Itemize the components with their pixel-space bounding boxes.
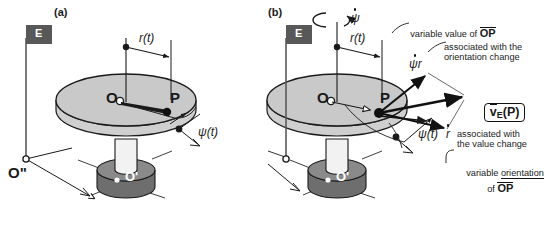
- panel-a-point-label: P: [170, 90, 180, 107]
- panel-a-ground-origin-node: [23, 156, 29, 162]
- panel-a-origin-label: O: [106, 90, 118, 107]
- panel-a-base-origin-node: [114, 177, 119, 182]
- panel-a-angle-ref-node: [176, 126, 183, 133]
- panel-b-base-origin-node: [325, 177, 330, 182]
- panel-b-base-origin-label: O': [336, 170, 349, 185]
- callout-variable-orientation-vec: of OP: [477, 172, 513, 205]
- panel-a-id: (a): [54, 6, 67, 18]
- panel-b-angle-label: ψ(t): [418, 128, 438, 141]
- panel-b-spin-arc: [313, 13, 350, 27]
- panel-b-radius-label: r(t): [350, 32, 365, 45]
- panel-b-origin-label: O: [317, 90, 329, 107]
- panel-a-frame-pole: [26, 25, 52, 159]
- panel-a-base-origin-label: O': [125, 170, 138, 185]
- panel-a-angle-label: ψ(t): [198, 126, 218, 139]
- panel-a-ground-axes: [26, 148, 90, 196]
- panel-b-angle-ref-node: [393, 134, 400, 141]
- panel-a-ground-origin-label: O": [8, 165, 27, 182]
- panel-b-radial-vector-label: r: [446, 128, 450, 141]
- panel-a-radius-label: r(t): [139, 32, 154, 45]
- panel-b-id: (b): [268, 6, 282, 18]
- panel-b-tangential-vector-label: ψr: [409, 58, 422, 71]
- panel-a-graphics: [23, 25, 200, 198]
- panel-b-point-label: P: [380, 90, 390, 107]
- panel-b-spin-rate-label: ψ: [351, 12, 360, 25]
- callout-value-change: associated with the value change: [457, 129, 527, 150]
- panel-a-flag-label: E: [35, 27, 42, 39]
- panel-b-flag-label: E: [295, 27, 302, 39]
- callout-orientation-change: associated with the orientation change: [444, 42, 522, 63]
